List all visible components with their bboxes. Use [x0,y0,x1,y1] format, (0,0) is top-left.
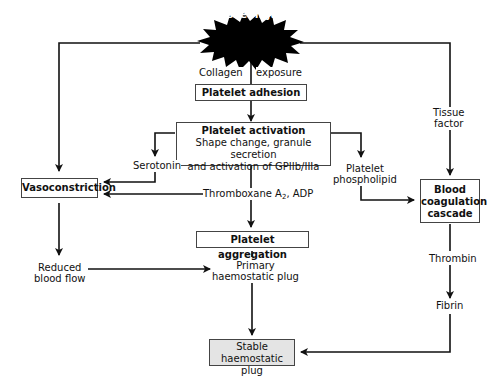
arrow-serotonin-to-vasoconstriction [104,172,155,182]
arrow-fibrin-to-stable-plug [301,314,450,352]
primary-plug-line2: haemostatic plug [212,271,299,282]
platelet-phospholipid-line1: Platelet [333,163,397,174]
collagen-label: Collagen [199,67,243,79]
platelet-aggregation-node: Platelet aggregation [196,231,309,248]
coagulation-line3: cascade [421,208,479,220]
vessel-injury-label: Vessel injury [208,8,294,21]
tissue-factor-line1: Tissue [433,107,465,118]
serotonin-label: Serotonin [133,160,181,172]
tissue-factor-line2: factor [433,118,465,129]
vasoconstriction-node: Vasoconstriction [21,178,98,198]
thrombin-label: Thrombin [429,253,477,265]
arrow-activation-to-serotonin [155,133,175,156]
platelet-activation-line1: Shape change, granule secretion [177,137,330,161]
platelet-phospholipid-line2: phospholipid [333,174,397,185]
platelet-activation-title: Platelet activation [177,125,330,137]
platelet-adhesion-node: Platelet adhesion [195,84,307,101]
arrow-phospholipid-to-coagulation [361,186,414,200]
primary-haemostatic-plug-label: Primary haemostatic plug [212,260,299,282]
platelet-activation-node: Platelet activation Shape change, granul… [176,122,331,166]
reduced-flow-line2: blood flow [34,273,85,284]
exposure-label: exposure [256,67,302,79]
thromboxane-label: Thromboxane A2, ADP [203,188,313,200]
thromboxane-suffix: , ADP [286,188,313,199]
coagulation-line1: Blood [421,184,479,196]
fibrin-label: Fibrin [436,300,463,312]
stable-plug-line1: Stable [210,341,294,353]
coagulation-line2: coagulation [421,196,479,208]
primary-plug-line1: Primary [212,260,299,271]
stable-haemostatic-plug-node: Stable haemostatic plug [209,339,295,366]
platelet-phospholipid-label: Platelet phospholipid [333,163,397,185]
arrow-activation-to-phospholipid [331,133,361,157]
blood-coagulation-cascade-node: Blood coagulation cascade [420,179,480,223]
thromboxane-text: Thromboxane A [203,188,282,199]
reduced-flow-line1: Reduced [34,262,85,273]
tissue-factor-label: Tissue factor [433,107,465,129]
stable-plug-line2: haemostatic plug [210,353,294,377]
line-injury-to-tissue-factor [300,43,450,108]
platelet-activation-line2: and activation of GPIIb/IIIa [177,161,330,173]
reduced-blood-flow-label: Reduced blood flow [34,262,85,284]
